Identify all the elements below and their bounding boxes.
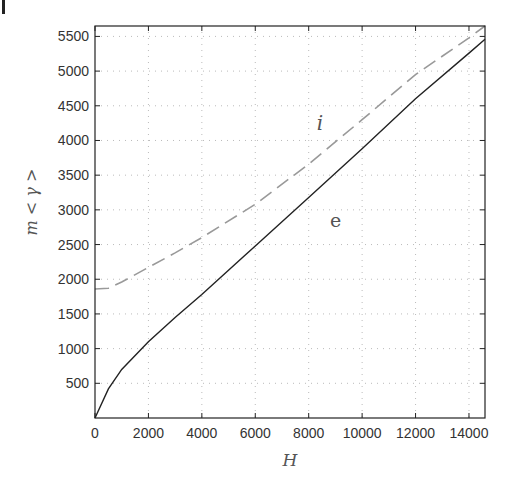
- y-tick-label: 3000: [58, 202, 89, 218]
- y-tick-label: 1000: [58, 341, 89, 357]
- x-tick-label: 0: [91, 425, 99, 441]
- y-tick-label: 500: [66, 375, 90, 391]
- y-tick-label: 4500: [58, 98, 89, 114]
- y-tick-label: 4000: [58, 132, 89, 148]
- x-tick-label: 2000: [133, 425, 164, 441]
- y-tick-label: 2500: [58, 237, 89, 253]
- x-tick-label: 12000: [396, 425, 435, 441]
- x-axis-label: H: [282, 450, 299, 470]
- x-tick-label: 8000: [293, 425, 324, 441]
- x-tick-label: 10000: [343, 425, 382, 441]
- annotation-e: e: [330, 209, 341, 231]
- series-i: [95, 26, 485, 289]
- y-tick-label: 5500: [58, 28, 89, 44]
- y-axis-label: m < γ >: [22, 169, 41, 236]
- axis-ticks: 0200040006000800010000120001400050010001…: [58, 26, 489, 441]
- y-tick-label: 5000: [58, 63, 89, 79]
- y-tick-label: 3500: [58, 167, 89, 183]
- y-tick-label: 1500: [58, 306, 89, 322]
- grid-lines: [95, 26, 485, 418]
- series-lines: [95, 26, 485, 418]
- x-tick-label: 4000: [186, 425, 217, 441]
- x-tick-label: 14000: [450, 425, 489, 441]
- plot-frame: [95, 26, 485, 418]
- annotation-i: i: [317, 111, 323, 135]
- line-chart: 0200040006000800010000120001400050010001…: [0, 0, 514, 488]
- y-tick-label: 2000: [58, 271, 89, 287]
- series-e: [95, 39, 485, 418]
- x-tick-label: 6000: [240, 425, 271, 441]
